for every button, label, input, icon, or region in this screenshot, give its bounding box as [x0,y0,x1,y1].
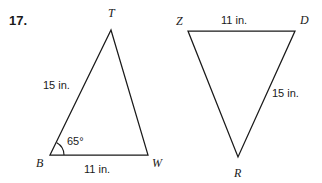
vertex-label-z: Z [176,14,183,28]
vertex-label-w: W [152,156,163,170]
side-label-zd-length: 11 in. [221,14,247,26]
vertex-label-r: R [233,166,242,180]
problem-number: 17. [9,13,27,28]
side-label-bw-length: 11 in. [84,163,110,175]
geometry-diagram: 17. T B W 15 in. 11 in. 65° Z D R 11 in. [0,0,322,183]
side-label-dr-length: 15 in. [272,87,299,99]
side-label-bt-length: 15 in. [43,79,70,91]
problem-figure-page: 17. T B W 15 in. 11 in. 65° Z D R 11 in. [0,0,322,183]
triangle-btw-outline [50,30,148,155]
triangle-zdr: Z D R 11 in. 15 in. [176,13,309,180]
triangle-btw: T B W 15 in. 11 in. 65° [36,6,163,175]
vertex-label-d: D [299,13,309,27]
vertex-label-t: T [108,6,116,20]
angle-arc-b [57,143,64,155]
vertex-label-b: B [36,156,44,170]
angle-label-b-measure: 65° [67,135,84,147]
